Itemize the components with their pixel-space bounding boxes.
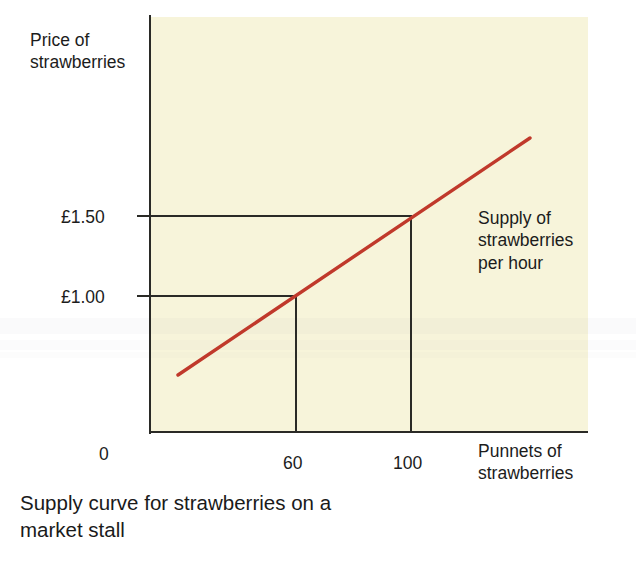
figure-caption: Supply curve for strawberries on a marke… [20, 489, 360, 543]
series-label-supply: Supply of strawberries per hour [478, 207, 573, 274]
y-tick-label-1-50: £1.50 [61, 206, 105, 228]
y-tick-label-1-00: £1.00 [61, 286, 105, 308]
x-axis-line [150, 431, 588, 433]
gridline-price-1-50 [150, 215, 412, 217]
x-axis-label: Punnets of strawberries [478, 440, 573, 485]
dropline-quantity-100 [410, 216, 412, 432]
x-tick-label-100: 100 [393, 452, 422, 474]
origin-label: 0 [99, 443, 109, 465]
x-tick-label-60: 60 [283, 452, 302, 474]
dropline-quantity-60 [295, 296, 297, 432]
supply-curve-figure: Price of strawberries £1.50 £1.00 0 60 1… [0, 0, 636, 580]
y-axis-label: Price of strawberries [30, 29, 125, 74]
y-axis-line [149, 15, 151, 434]
gridline-price-1-00 [150, 295, 297, 297]
